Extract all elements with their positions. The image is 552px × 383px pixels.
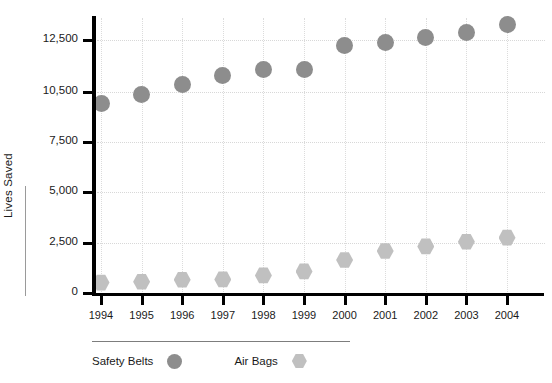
data-point xyxy=(336,252,353,269)
gridline-vertical xyxy=(263,18,264,294)
circle-marker-icon xyxy=(167,354,182,369)
x-tick-label: 2004 xyxy=(484,309,530,321)
x-tick-label: 2000 xyxy=(322,309,368,321)
chart-legend: Safety Belts Air Bags xyxy=(92,350,307,372)
data-point xyxy=(458,233,475,250)
x-tick-label: 2001 xyxy=(362,309,408,321)
data-point xyxy=(377,34,394,51)
x-tick-label: 1999 xyxy=(281,309,327,321)
y-tick-mark xyxy=(83,242,95,245)
x-tick-mark xyxy=(465,296,468,305)
x-axis-line xyxy=(92,293,544,296)
legend-label-safety-belts: Safety Belts xyxy=(92,355,153,367)
data-point xyxy=(133,273,150,290)
data-point xyxy=(417,29,434,46)
gridline-vertical xyxy=(182,18,183,294)
data-point xyxy=(336,37,353,54)
y-tick-mark xyxy=(83,91,95,94)
x-tick-label: 1995 xyxy=(119,309,165,321)
legend-divider xyxy=(92,341,350,342)
data-point xyxy=(296,61,313,78)
data-point xyxy=(174,271,191,288)
x-tick-mark xyxy=(222,296,225,305)
x-tick-mark xyxy=(141,296,144,305)
gridline-vertical xyxy=(142,18,143,294)
y-tick-label: 0 xyxy=(20,285,78,297)
data-point xyxy=(214,67,231,84)
data-point xyxy=(458,24,475,41)
gridline-horizontal xyxy=(97,243,545,244)
x-tick-mark xyxy=(100,296,103,305)
data-point xyxy=(296,263,313,280)
gridline-vertical xyxy=(304,18,305,294)
gridline-horizontal xyxy=(97,40,545,41)
y-tick-mark xyxy=(83,141,95,144)
legend-label-air-bags: Air Bags xyxy=(234,355,277,367)
y-axis-ticks: 02,5005,0007,50010,50012,500 xyxy=(0,0,78,383)
hexagon-marker-icon xyxy=(292,354,307,369)
legend-item-safety-belts: Safety Belts xyxy=(92,354,182,369)
data-point xyxy=(255,267,272,284)
data-point xyxy=(214,271,231,288)
data-point xyxy=(255,61,272,78)
x-tick-label: 1998 xyxy=(240,309,286,321)
x-tick-mark xyxy=(303,296,306,305)
y-axis-line xyxy=(92,16,96,296)
x-tick-mark xyxy=(425,296,428,305)
y-tick-label: 10,500 xyxy=(20,84,78,96)
y-tick-label: 2,500 xyxy=(20,235,78,247)
gridline-horizontal xyxy=(97,142,545,143)
data-point xyxy=(377,243,394,260)
legend-item-air-bags: Air Bags xyxy=(234,354,306,369)
y-tick-mark xyxy=(83,191,95,194)
y-tick-label: 5,000 xyxy=(20,184,78,196)
gridline-vertical xyxy=(101,18,102,294)
gridline-horizontal xyxy=(97,192,545,193)
x-tick-mark xyxy=(506,296,509,305)
data-point xyxy=(499,16,516,33)
y-tick-mark xyxy=(83,292,95,295)
scatter-chart: Lives Saved 02,5005,0007,50010,50012,500… xyxy=(0,0,552,383)
x-tick-label: 2003 xyxy=(443,309,489,321)
gridline-vertical xyxy=(223,18,224,294)
x-tick-label: 1996 xyxy=(159,309,205,321)
x-tick-mark xyxy=(384,296,387,305)
gridline-vertical xyxy=(466,18,467,294)
gridline-vertical xyxy=(507,18,508,294)
x-tick-label: 1994 xyxy=(78,309,124,321)
x-tick-mark xyxy=(344,296,347,305)
data-point xyxy=(174,76,191,93)
x-tick-mark xyxy=(181,296,184,305)
x-tick-mark xyxy=(262,296,265,305)
y-tick-mark xyxy=(83,39,95,42)
data-point xyxy=(133,86,150,103)
y-tick-label: 7,500 xyxy=(20,134,78,146)
data-point xyxy=(417,238,434,255)
x-tick-label: 1997 xyxy=(200,309,246,321)
gridline-horizontal xyxy=(97,92,545,93)
x-tick-label: 2002 xyxy=(403,309,449,321)
plot-area xyxy=(97,18,545,294)
y-tick-label: 12,500 xyxy=(20,32,78,44)
